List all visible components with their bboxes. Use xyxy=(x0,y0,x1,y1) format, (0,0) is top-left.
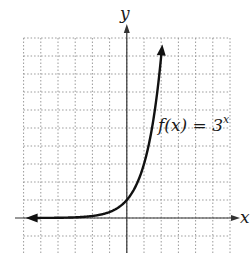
function-label: f(x) = 3x xyxy=(156,113,230,135)
y-axis-label: y xyxy=(119,3,130,23)
function-label-exponent: x xyxy=(223,113,230,126)
function-curve xyxy=(36,52,162,218)
curve-left-arrow-icon xyxy=(26,213,38,222)
x-axis-label: x xyxy=(240,207,250,227)
exponential-graph: y x f(x) = 3x xyxy=(0,0,250,253)
y-axis-arrow-icon xyxy=(124,24,130,33)
x-axis-arrow-icon xyxy=(231,215,240,221)
function-label-base: f(x) = 3 xyxy=(156,115,223,135)
